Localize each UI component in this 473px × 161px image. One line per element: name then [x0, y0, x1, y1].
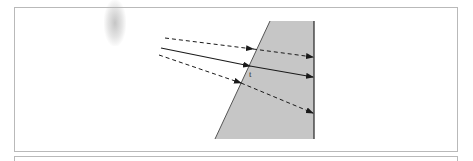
upper-ray-incident — [165, 38, 253, 49]
medium-block — [215, 21, 314, 139]
lower-ray-incident — [159, 55, 241, 83]
center-ray-incident — [161, 48, 250, 66]
refraction-diagram: t — [0, 0, 473, 161]
